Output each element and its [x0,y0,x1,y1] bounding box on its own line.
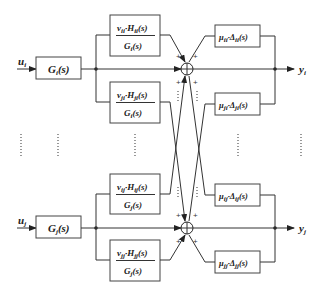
sign-plus: + [176,237,181,246]
plant-label-gj: Gj(s) [48,222,70,236]
loop-i: ui Gi(s) vii·Hii(s) Gi(s) vji·Hji(s) Gi(… [17,15,306,123]
wire-mu-ji-to-sum-j [189,104,215,221]
sign-plus: + [193,211,198,220]
sign-plus: + [193,78,198,87]
wire-vii-to-sum-i [160,35,185,62]
input-label-ui: ui [18,55,26,69]
wire-vji-to-sum-j [160,102,185,221]
output-label-yj: yj [297,222,306,236]
sign-plus: + [193,237,198,246]
input-label-uj: uj [18,214,26,228]
output-label-yi: yi [297,63,306,77]
sign-plus: + [176,78,181,87]
sign-plus: + [176,211,181,220]
loop-j: uj Gj(s) vij·Hij(s) Gj(s) vjj·Hjj(s) Gj(… [17,174,306,281]
plant-label-gi: Gi(s) [48,63,70,77]
block-diagram: ui Gi(s) vii·Hii(s) Gi(s) vji·Hji(s) Gi(… [0,0,322,299]
wire-vjj-to-sum-j [160,235,185,260]
wire-vij-to-sum-i [160,76,185,194]
wire-mu-ij-to-sum-i [189,76,215,195]
